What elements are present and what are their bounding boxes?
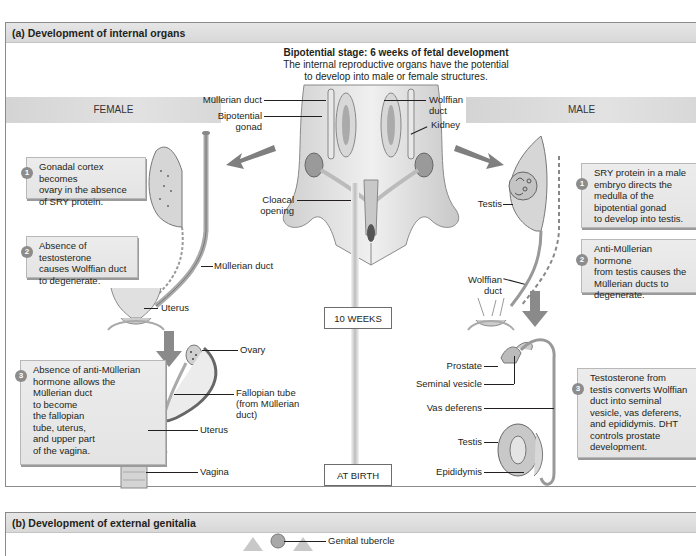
female-band: FEMALE [6,97,221,123]
callout-line: Müllerian duct [33,387,161,399]
leader-gonad [264,116,322,117]
label-vas-deferens: Vas deferens [386,402,482,413]
step-badge-1: 1 [21,167,33,179]
male-callout-3: 3 Testosterone from testis converts Wolf… [577,368,696,458]
label-cloacal-opening-1: Cloacal [226,194,294,205]
label-wolffian-duct-1: Wolffian [429,94,463,105]
male-callout-2: 2 Anti-Müllerian hormone from testis cau… [581,239,696,293]
label-epididymis: Epididymis [406,466,482,477]
male-callout-1: 1 SRY protein in a male embryo directs t… [581,163,696,228]
callout-line: ovary in the absence [39,184,141,196]
callout-line: Absence of testosterone [39,240,133,263]
panel-external-genitalia: (b) Development of external genitalia Ge… [5,512,696,556]
callout-line: to develop into testis. [594,213,692,225]
leader-f-mullerian [201,266,213,267]
callout-line: testis converts Wolffian [590,384,692,396]
label-prostate: Prostate [406,360,482,371]
label-vagina: Vagina [200,466,229,477]
callout-line: and upper part [33,433,161,445]
callout-line: degenerate. [594,289,692,301]
bipotential-stage-desc-1: The internal reproductive organs have th… [246,59,546,71]
callout-line: and epididymis. DHT [590,418,692,430]
bipotential-stage-title: Bipotential stage: 6 weeks of fetal deve… [246,47,546,59]
leader-seminal-vesicle-v [514,356,515,384]
callout-line: to degenerate. [39,275,133,287]
callout-line: duct into seminal [590,395,692,407]
female-ovary-fallopian-illustration [156,343,231,453]
callout-line: of SRY protein. [39,196,141,208]
callout-line: hormone allows the [33,376,161,388]
label-f-uterus-upper: Uterus [161,302,189,313]
arrow-down-male-icon [522,291,548,327]
label-mullerian-duct: Müllerian duct [196,94,262,105]
female-callout-2: 2 Absence of testosterone causes Wolffia… [26,236,138,278]
callout-line: causes Wolffian duct [39,263,133,275]
leader-wolffian [384,100,426,101]
bipotential-stage-desc-2: to develop into male or female structure… [246,71,546,83]
leader-prostate [484,366,498,367]
label-kidney: Kidney [431,119,460,130]
label-seminal-vesicle: Seminal vesicle [386,378,482,389]
callout-line: medulla of the [594,190,692,202]
leader-seminal-vesicle [484,384,514,385]
callout-line: SRY protein in a male [594,167,692,179]
leader-m-testis-upper [503,204,513,205]
leader-genital-tubercle [284,541,326,542]
leader-f-ovary [202,350,238,351]
callout-line: Müllerian ducts to [594,278,692,290]
label-m-testis-upper: Testis [466,198,502,209]
callout-line: controls prostate [590,430,692,442]
callout-line: of the vagina. [33,445,161,457]
label-fallopian-1: Fallopian tube [236,387,296,398]
arrow-to-female-icon [224,141,276,173]
female-callout-3: 3 Absence of anti-Müllerian hormone allo… [20,360,166,465]
label-bipotential-gonad-1: Bipotential [196,110,262,121]
callout-line: tube, uterus, [33,422,161,434]
leader-f-uterus-lower [148,430,198,431]
female-gonad-duct-illustration [146,131,216,311]
leader-epididymis [484,472,524,473]
step-badge-1: 1 [576,178,588,190]
timeline-bar [351,183,359,483]
label-ovary: Ovary [240,344,265,355]
timeline-at-birth: AT BIRTH [324,464,392,486]
label-f-mullerian-duct: Müllerian duct [214,260,273,271]
leader-m-testis-lower [484,442,498,443]
label-wolffian-duct-2: duct [429,105,447,116]
male-testis-duct-illustration [501,131,571,311]
leader-vas-deferens [484,408,554,409]
callout-line: development. [590,441,692,453]
leader-mullerian [264,100,326,101]
panel-internal-organs: (a) Development of internal organs Bipot… [5,22,696,487]
callout-line: to become [33,399,161,411]
label-genital-tubercle: Genital tubercle [328,535,395,546]
panel-b-header: (b) Development of external genitalia [6,513,696,533]
leader-f-uterus-upper [144,308,158,309]
callout-line: Gonadal cortex becomes [39,161,141,184]
male-band: MALE [466,97,696,123]
panel-a-header: (a) Development of internal organs [6,23,696,43]
label-m-testis-lower: Testis [436,436,482,447]
callout-line: from testis causes the [594,266,692,278]
label-m-wolffian-2: duct [456,285,502,296]
step-badge-3: 3 [572,383,584,395]
callout-line: embryo directs the [594,179,692,191]
callout-line: Testosterone from [590,372,692,384]
female-callout-1: 1 Gonadal cortex becomes ovary in the ab… [26,157,146,199]
leader-f-fallopian [174,394,234,395]
leader-cloacal [297,200,355,201]
label-m-wolffian-1: Wolffian [456,274,502,285]
leader-f-vagina [146,472,198,473]
callout-line: Absence of anti-Müllerian [33,364,161,376]
label-f-uterus-lower: Uterus [200,424,228,435]
step-badge-3: 3 [15,370,27,382]
step-badge-2: 2 [21,246,33,258]
timeline-10-weeks: 10 WEEKS [324,307,392,329]
label-cloacal-opening-2: opening [226,205,294,216]
female-uterus-upper-illustration [106,288,166,330]
callout-line: Anti-Müllerian hormone [594,243,692,266]
male-base-upper-illustration [466,298,516,330]
callout-line: bipotential gonad [594,202,692,214]
male-reproductive-tract-illustration [496,338,566,488]
label-fallopian-3: duct) [236,409,257,420]
